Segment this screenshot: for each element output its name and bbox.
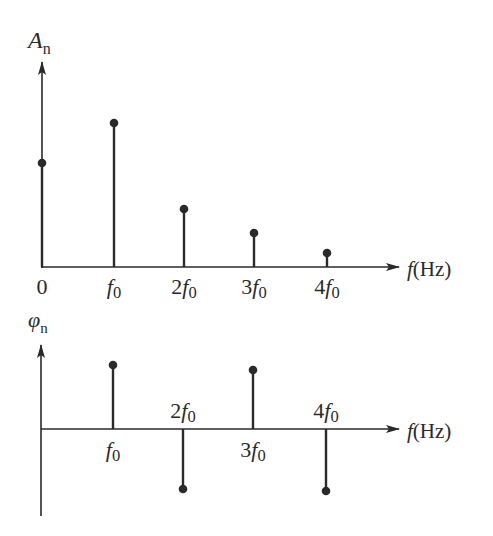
spectrum-figure: An f(Hz) 0f02f03f04f0 φn f(Hz) f02f03f04…: [0, 0, 493, 536]
amplitude-x-label: f(Hz): [407, 257, 451, 281]
tick-label: 4f0: [313, 398, 338, 426]
tick-label: 3f0: [240, 437, 265, 465]
phase-chart: φn f(Hz) f02f03f04f0: [28, 307, 451, 516]
amplitude-tick-labels: 0f02f03f04f0: [37, 274, 340, 302]
stem-marker: [180, 205, 189, 214]
phase-x-label: f(Hz): [407, 419, 451, 443]
phase-stems: [109, 361, 331, 496]
stem-marker: [109, 361, 118, 370]
amplitude-y-label: An: [26, 27, 51, 57]
tick-label: f0: [106, 437, 120, 465]
phase-tick-labels: f02f03f04f0: [106, 398, 339, 465]
stem-marker: [249, 366, 258, 375]
tick-label: 2f0: [170, 398, 195, 426]
stem-marker: [322, 487, 331, 496]
tick-label: 0: [37, 274, 48, 299]
stem-marker: [323, 249, 332, 258]
amplitude-chart: An f(Hz) 0f02f03f04f0: [26, 27, 451, 302]
phase-y-label: φn: [28, 307, 48, 336]
tick-label: 2f0: [171, 274, 196, 302]
stem-marker: [179, 485, 188, 494]
stem-marker: [250, 229, 259, 238]
stem-marker: [110, 119, 119, 128]
tick-label: 4f0: [314, 274, 339, 302]
tick-label: 3f0: [241, 274, 266, 302]
stem-marker: [38, 159, 47, 168]
tick-label: f0: [107, 274, 121, 302]
amplitude-stems: [38, 119, 332, 267]
